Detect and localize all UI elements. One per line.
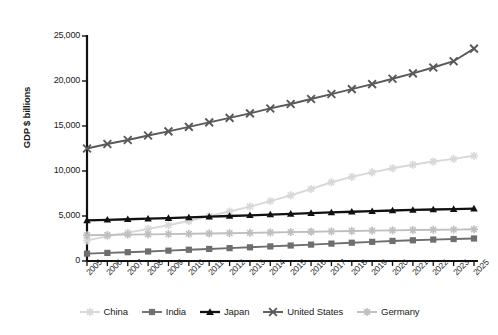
legend-item-china[interactable]: China [79,306,128,318]
x-tick-label: 2021 [410,257,430,277]
legend-item-india[interactable]: India [141,306,186,318]
x-axis-tick-labels: 2005200620072008200920102011201220132014… [0,0,498,335]
legend-label: United States [287,307,343,317]
asterisk-marker-icon [356,306,378,318]
x-tick-label: 2016 [308,257,328,277]
cross-marker-icon [262,306,284,318]
x-tick-label: 2008 [145,257,165,277]
x-tick-label: 2014 [267,257,287,277]
x-tick-label: 2010 [186,257,206,277]
legend-item-japan[interactable]: Japan [199,306,249,318]
x-tick-label: 2019 [369,257,389,277]
x-tick-label: 2007 [125,257,145,277]
square-marker-icon [141,306,163,318]
chart-legend: ChinaIndiaJapanUnited StatesGermany [0,306,498,318]
star-marker-icon [79,306,101,318]
x-tick-label: 2017 [328,257,348,277]
x-tick-label: 2015 [288,257,308,277]
x-tick-label: 2020 [390,257,410,277]
x-tick-label: 2005 [84,257,104,277]
x-tick-label: 2009 [165,257,185,277]
legend-item-germany[interactable]: Germany [356,306,419,318]
gdp-line-chart: GDP $ billions 05,00010,00015,00020,0002… [0,0,498,335]
legend-label: China [104,307,128,317]
x-tick-label: 2018 [349,257,369,277]
legend-label: Germany [381,307,419,317]
legend-label: India [166,307,186,317]
x-tick-label: 2022 [430,257,450,277]
x-tick-label: 2011 [206,258,225,277]
x-tick-label: 2025 [471,257,491,277]
x-tick-label: 2013 [247,257,267,277]
triangle-marker-icon [199,306,221,318]
x-tick-label: 2012 [227,257,247,277]
legend-item-united-states[interactable]: United States [262,306,343,318]
legend-label: Japan [224,307,249,317]
x-tick-label: 2023 [451,257,471,277]
x-tick-label: 2006 [104,257,124,277]
